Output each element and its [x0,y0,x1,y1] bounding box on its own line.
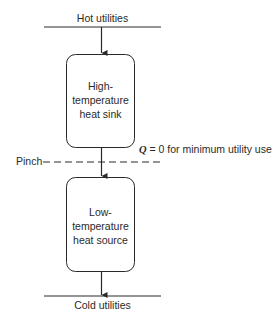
lower-box-line3: heat source [66,233,135,247]
heat-flow-symbol: Q [139,144,147,155]
lower-box-label: Low- temperature heat source [66,205,135,247]
lower-box-line1: Low- [66,205,135,219]
cold-utilities-label: Cold utilities [44,299,161,312]
pinch-annotation-text: = 0 for minimum utility use [147,143,272,155]
upper-box-line2: temperature [66,93,135,107]
upper-box-label: High- temperature heat sink [66,79,135,121]
pinch-annotation: Q = 0 for minimum utility use [139,143,272,156]
pinch-label: Pinch [16,155,42,168]
lower-box-line2: temperature [66,219,135,233]
upper-box-line3: heat sink [66,107,135,121]
hot-utilities-label: Hot utilities [44,12,161,25]
upper-box-line1: High- [66,79,135,93]
